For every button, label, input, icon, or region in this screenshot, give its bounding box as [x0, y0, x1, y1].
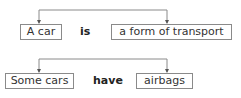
- subject-box-a-car: A car: [20, 24, 62, 40]
- subject-box-some-cars: Some cars: [5, 73, 74, 89]
- verb-have: have: [93, 74, 123, 88]
- object-box-airbags: airbags: [136, 73, 193, 89]
- object-box-form-of-transport: a form of transport: [111, 24, 232, 40]
- verb-is: is: [80, 25, 90, 39]
